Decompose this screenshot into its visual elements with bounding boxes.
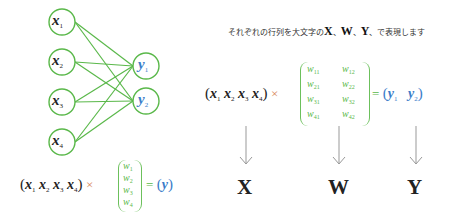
matrix-label-X: X (237, 175, 252, 200)
arrow-down-icon-w (333, 126, 345, 164)
matrix-label-Y: Y (407, 175, 422, 200)
arrow-down-icon-y (410, 126, 422, 164)
matrix-label-W: W (328, 175, 349, 200)
down-arrows (0, 0, 461, 222)
arrow-down-icon-x (240, 126, 252, 164)
